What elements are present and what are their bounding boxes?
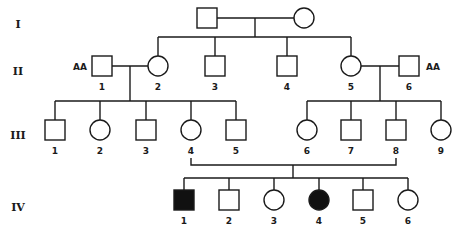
label-II-6: 6 <box>406 82 412 92</box>
generation-label-III: III <box>10 129 25 142</box>
label-IV-4: 4 <box>316 216 322 226</box>
individual-III-4-female <box>181 120 201 140</box>
individual-III-7-male <box>341 120 361 140</box>
individual-III-5-male <box>226 120 246 140</box>
generation-label-I: I <box>15 18 20 31</box>
individual-III-8-male <box>386 120 406 140</box>
label-II-1: 1 <box>99 82 105 92</box>
individual-IV-3-female <box>264 190 284 210</box>
genotype-label-II-1: AA <box>73 62 87 72</box>
label-III-5: 5 <box>233 146 239 156</box>
individual-IV-5-male <box>353 190 373 210</box>
label-III-3: 3 <box>143 146 149 156</box>
connector-lines <box>55 18 441 190</box>
label-III-8: 8 <box>393 146 399 156</box>
label-IV-5: 5 <box>360 216 366 226</box>
individual-IV-6-female <box>398 190 418 210</box>
individual-I-2-female <box>294 8 314 28</box>
label-III-6: 6 <box>304 146 310 156</box>
label-III-4: 4 <box>188 146 194 156</box>
label-IV-6: 6 <box>405 216 411 226</box>
label-III-9: 9 <box>438 146 444 156</box>
label-IV-3: 3 <box>271 216 277 226</box>
individual-IV-2-male <box>219 190 239 210</box>
individual-II-6-male <box>399 56 419 76</box>
pedigree-chart: I II III IV <box>0 0 461 230</box>
label-III-1: 1 <box>52 146 58 156</box>
individual-II-5-female <box>341 56 361 76</box>
individual-III-1-male <box>45 120 65 140</box>
individual-II-3-male <box>205 56 225 76</box>
label-II-5: 5 <box>348 82 354 92</box>
individual-II-4-male <box>277 56 297 76</box>
generation-label-IV: IV <box>11 201 25 214</box>
label-III-7: 7 <box>348 146 354 156</box>
individual-III-3-male <box>136 120 156 140</box>
individual-III-9-female <box>431 120 451 140</box>
individual-III-2-female <box>90 120 110 140</box>
mating-line-III <box>191 158 396 165</box>
individual-IV-1-male-affected <box>174 190 194 210</box>
label-II-2: 2 <box>155 82 161 92</box>
individual-I-1-male <box>197 8 217 28</box>
label-IV-2: 2 <box>226 216 232 226</box>
individual-IV-4-female-affected <box>309 190 329 210</box>
label-III-2: 2 <box>97 146 103 156</box>
pedigree-svg: I II III IV <box>0 0 461 230</box>
label-IV-1: 1 <box>181 216 187 226</box>
generation-label-II: II <box>13 65 23 78</box>
genotype-label-II-6: AA <box>426 62 440 72</box>
individual-III-6-female <box>297 120 317 140</box>
individual-II-2-female <box>148 56 168 76</box>
label-II-4: 4 <box>284 82 290 92</box>
individual-II-1-male <box>92 56 112 76</box>
label-II-3: 3 <box>212 82 218 92</box>
